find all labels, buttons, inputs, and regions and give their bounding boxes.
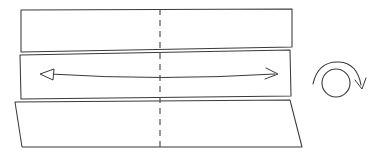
figure-root [0,0,383,155]
top-panel-shape [21,9,292,52]
technical-drawing-canvas [0,0,383,155]
rotation-arrow-group [313,62,366,97]
rotation-arc [313,62,361,85]
rotation-circle-icon [322,69,350,97]
bottom-panel-shape [15,100,302,147]
